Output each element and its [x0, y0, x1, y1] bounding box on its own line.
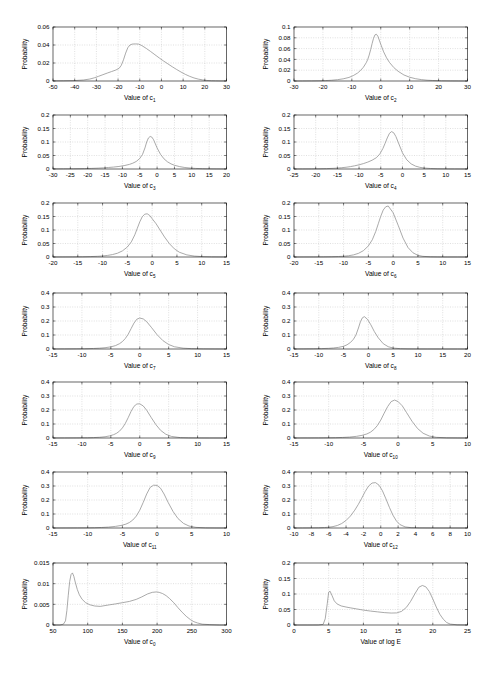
x-tick-label: 250 [187, 627, 198, 634]
y-tick-label: 0.2 [41, 406, 50, 413]
x-tick-label: 20 [223, 171, 230, 178]
x-tick-label: -8 [308, 530, 314, 537]
y-tick-label: 0.2 [41, 111, 50, 118]
x-tick-label: 0 [379, 530, 383, 537]
y-tick-label: 0.15 [278, 125, 291, 132]
y-axis-title: Probability [262, 38, 270, 69]
x-tick-label: -40 [70, 83, 80, 90]
x-tick-label: 50 [50, 627, 57, 634]
x-tick-label: 20 [201, 83, 208, 90]
x-tick-label: 5 [431, 440, 435, 447]
y-axis-title: Probability [21, 484, 29, 515]
y-tick-label: 0 [46, 253, 50, 260]
x-tick-label: 0 [396, 440, 400, 447]
x-tick-label: 0 [155, 530, 159, 537]
y-tick-label: 0.1 [41, 420, 50, 427]
x-tick-label: 300 [221, 627, 232, 634]
x-tick-label: 5 [422, 171, 426, 178]
plot-panel-13: 5010015020025030000.0050.010.015Value of… [0, 551, 241, 655]
x-tick-label: 0 [400, 171, 404, 178]
plot-panel-9: -15-10-505101500.10.20.30.4Value of c9Pr… [0, 370, 241, 468]
distribution-curve [294, 400, 468, 438]
y-axis-title: Probability [21, 38, 29, 69]
y-tick-label: 0.05 [278, 606, 291, 613]
x-tick-label: -5 [377, 171, 383, 178]
y-tick-label: 0.1 [41, 510, 50, 517]
x-tick-label: 100 [83, 627, 94, 634]
x-tick-label: 10 [464, 530, 471, 537]
x-tick-label: 0 [292, 627, 296, 634]
y-tick-label: 0.2 [281, 199, 290, 206]
y-axis-title: Probability [262, 305, 270, 336]
plot-panel-6: -20-15-10-505101500.050.10.150.2Value of… [241, 191, 481, 287]
y-axis-title: Probability [262, 214, 270, 245]
x-tick-label: -6 [325, 530, 331, 537]
x-tick-label: 15 [464, 171, 471, 178]
y-tick-label: 0.04 [278, 56, 291, 63]
y-tick-label: 0.15 [37, 125, 50, 132]
y-tick-label: 0.1 [281, 331, 290, 338]
y-tick-label: 0.1 [41, 331, 50, 338]
x-axis-title: Value of c3 [124, 182, 156, 191]
x-tick-label: 200 [152, 627, 163, 634]
x-axis-title-text: Value of c [365, 362, 395, 369]
x-tick-label: -30 [289, 83, 299, 90]
x-tick-label: 0 [379, 83, 383, 90]
x-tick-label: 5 [416, 259, 420, 266]
x-tick-label: -25 [66, 171, 76, 178]
x-axis-title: Value of c9 [124, 451, 156, 460]
y-tick-label: 0.3 [281, 482, 290, 489]
y-tick-label: 0.1 [281, 510, 290, 517]
y-tick-label: 0.015 [34, 559, 50, 566]
y-tick-label: 0.1 [281, 138, 290, 145]
y-tick-label: 0 [287, 253, 291, 260]
y-tick-label: 0.4 [41, 378, 50, 385]
y-tick-label: 0.05 [37, 240, 50, 247]
x-tick-label: 0 [138, 440, 142, 447]
x-tick-label: -20 [311, 171, 321, 178]
distribution-curve [294, 317, 468, 349]
plot-panel-4: -25-20-15-10-505101500.050.10.150.2Value… [241, 103, 481, 199]
probability-distribution-figure: -50-40-30-20-10010203000.020.040.06Value… [0, 0, 481, 681]
y-tick-label: 0.005 [34, 601, 50, 608]
x-axis-title-subscript: 1 [153, 98, 156, 103]
distribution-curve [53, 485, 227, 528]
x-tick-label: 10 [194, 351, 201, 358]
y-tick-label: 0.2 [281, 559, 290, 566]
x-tick-label: 10 [464, 440, 471, 447]
y-tick-label: 0 [46, 345, 50, 352]
y-tick-label: 0.2 [281, 111, 290, 118]
y-tick-label: 0.3 [41, 392, 50, 399]
x-axis-title-text: Value of c [365, 94, 395, 101]
x-axis-title-text: Value of c [365, 270, 395, 277]
y-tick-label: 0.2 [281, 496, 290, 503]
x-tick-label: -10 [83, 530, 93, 537]
x-tick-label: -50 [49, 83, 59, 90]
x-tick-label: 10 [223, 530, 230, 537]
y-tick-label: 0.04 [37, 41, 50, 48]
plot-panel-12: -10-8-6-4-2024681000.10.20.30.4Value of … [241, 460, 481, 558]
x-axis-title: Value of c11 [123, 541, 157, 550]
y-tick-label: 0.06 [37, 23, 50, 30]
y-axis-title: Probability [21, 214, 29, 245]
x-tick-label: -15 [101, 171, 111, 178]
y-tick-label: 0.1 [281, 226, 290, 233]
y-tick-label: 0.15 [278, 213, 291, 220]
x-tick-label: -20 [49, 259, 59, 266]
x-tick-label: 25 [464, 627, 471, 634]
x-tick-label: 0 [160, 83, 164, 90]
y-tick-label: 0.3 [41, 303, 50, 310]
x-tick-label: 8 [448, 530, 452, 537]
y-tick-label: 0.3 [41, 482, 50, 489]
y-tick-label: 0.1 [281, 23, 290, 30]
x-axis-title-text: Value of c [124, 270, 154, 277]
x-tick-label: -10 [289, 530, 299, 537]
x-tick-label: -20 [114, 83, 124, 90]
x-axis-title-text: Value of c [124, 451, 154, 458]
x-tick-label: -10 [77, 440, 87, 447]
x-axis-title: Value of c5 [124, 270, 156, 279]
x-tick-label: 2 [396, 530, 400, 537]
y-tick-label: 0.1 [41, 226, 50, 233]
x-tick-label: -10 [77, 351, 87, 358]
x-tick-label: -20 [83, 171, 93, 178]
